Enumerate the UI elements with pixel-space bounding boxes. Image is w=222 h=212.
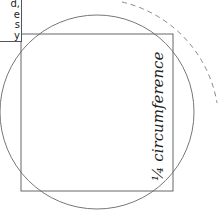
quarter-circumference-label: ¼ circumference <box>149 52 167 181</box>
caption-line: s <box>0 20 20 31</box>
dashed-quarter-arc <box>122 2 217 103</box>
caption-line: y <box>0 31 20 42</box>
geometry-diagram <box>0 0 222 212</box>
caption-box: d, e s y <box>0 0 22 42</box>
